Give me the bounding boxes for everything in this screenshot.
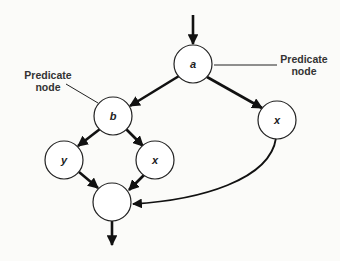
node-x-right: x <box>258 101 296 139</box>
edge-a-x <box>207 77 262 108</box>
edge-b-y <box>78 129 100 146</box>
node-a: a <box>174 45 212 83</box>
annotation-line1: Predicate <box>280 53 327 65</box>
edge-y-join <box>79 172 98 188</box>
annotation-line2: node <box>35 81 60 93</box>
node-label: y <box>60 154 68 166</box>
control-flow-diagram: a b x y x Predicate node Predicate node <box>0 0 340 261</box>
node-label: a <box>190 58 196 70</box>
node-label: b <box>110 110 117 122</box>
node-join <box>93 183 131 221</box>
node-y: y <box>45 141 83 179</box>
edge-a-b <box>130 76 179 106</box>
annotation-predicate-a: Predicate node <box>280 53 327 77</box>
annotation-line1: Predicate <box>24 69 71 81</box>
node-label: x <box>273 114 281 126</box>
annotation-line2: node <box>291 65 316 77</box>
node-b: b <box>94 97 132 135</box>
annotation-predicate-b: Predicate node <box>24 69 71 93</box>
edge-x-join <box>129 174 145 190</box>
node-label: x <box>151 154 159 166</box>
edge-b-x <box>126 129 143 146</box>
annotation-line-b <box>66 84 98 103</box>
node-x-mid: x <box>136 141 174 179</box>
